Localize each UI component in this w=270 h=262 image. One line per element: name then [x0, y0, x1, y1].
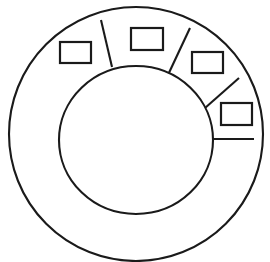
diagram-canvas: [0, 0, 270, 262]
callout-1-box[interactable]: [60, 42, 91, 63]
callout-2-box[interactable]: [131, 28, 163, 50]
callout-4-box[interactable]: [221, 103, 252, 125]
inner-hub-circle: [59, 66, 213, 214]
callout-3[interactable]: [192, 52, 223, 73]
ring-diagram-svg: [0, 0, 270, 262]
callout-3-box[interactable]: [192, 52, 223, 73]
callout-4[interactable]: [221, 103, 252, 125]
callout-1[interactable]: [60, 42, 91, 63]
callout-2[interactable]: [131, 28, 163, 50]
